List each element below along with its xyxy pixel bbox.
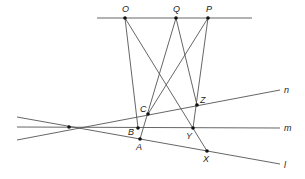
point-B xyxy=(136,126,140,130)
segment-PY xyxy=(193,18,208,128)
line-m xyxy=(17,127,280,128)
point-label-C: C xyxy=(140,104,147,114)
point-label-A: A xyxy=(135,142,142,152)
line-label-n: n xyxy=(284,85,289,95)
point-Q xyxy=(174,16,178,20)
geometry-diagram: nmlOQPCBAZYX xyxy=(0,0,305,179)
segment-OB xyxy=(125,18,138,128)
line-label-m: m xyxy=(284,123,292,133)
point-Y xyxy=(191,126,195,130)
point-Z xyxy=(195,103,199,107)
point-A xyxy=(138,137,142,141)
point-label-Q: Q xyxy=(173,4,180,14)
point-P xyxy=(206,16,210,20)
point-O xyxy=(123,16,127,20)
segment-PC xyxy=(148,18,208,114)
point-label-P: P xyxy=(206,4,212,14)
point-C xyxy=(146,112,150,116)
line-l xyxy=(17,117,280,164)
point-label-B: B xyxy=(128,127,134,137)
point-label-Z: Z xyxy=(199,95,206,105)
point-label-Y: Y xyxy=(186,131,193,141)
line-label-l: l xyxy=(284,160,287,170)
point-label-X: X xyxy=(202,154,210,164)
point-X xyxy=(205,149,209,153)
point-V xyxy=(67,125,71,129)
point-label-O: O xyxy=(122,4,129,14)
segment-QZ xyxy=(176,18,197,105)
